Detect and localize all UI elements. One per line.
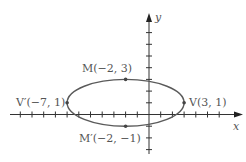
ellipse-curve (67, 79, 184, 126)
label-V: V(3, 1) (188, 96, 227, 109)
y-axis-arrow-icon (146, 13, 152, 22)
label-M: M(−2, 3) (82, 62, 132, 75)
x-axis-label: x (233, 120, 240, 133)
label-V-prime: V′(−7, 1) (15, 96, 65, 109)
x-axis-arrow-icon (234, 112, 243, 118)
point-V-prime (65, 101, 69, 105)
point-M (124, 78, 128, 82)
ellipse-diagram: x y M(−2, 3) M′(−2, −1) V′(−7, 1) V(3, 1… (0, 0, 246, 162)
point-M-prime (124, 124, 128, 128)
diagram-canvas: x y M(−2, 3) M′(−2, −1) V′(−7, 1) V(3, 1… (0, 0, 246, 162)
point-V (182, 101, 186, 105)
y-axis-label: y (154, 11, 162, 24)
label-M-prime: M′(−2, −1) (79, 132, 141, 145)
